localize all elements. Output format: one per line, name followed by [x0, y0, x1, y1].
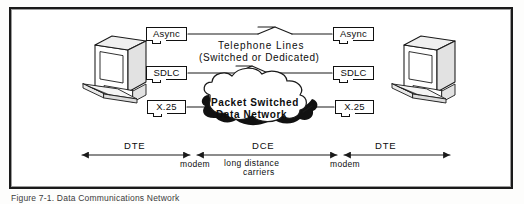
chip-tab	[339, 40, 348, 44]
protocol-chip-sdlc-left: SDLC	[146, 66, 187, 80]
chip-label: SDLC	[153, 68, 179, 78]
left-terminal-icon	[83, 36, 146, 103]
span-label-modem-right: modem	[330, 160, 360, 169]
chip-label: Async	[153, 29, 180, 39]
chip-tab	[152, 40, 161, 44]
protocol-chip-sdlc-right: SDLC	[333, 66, 374, 80]
chip-tab	[339, 79, 348, 83]
chip-tab	[341, 113, 350, 117]
telephone-lines-label-line1: Telephone Lines	[218, 41, 304, 52]
cloud-label-line2: Data Network	[216, 110, 287, 121]
right-terminal-icon	[392, 36, 455, 103]
span-label-modem-left: modem	[180, 160, 210, 169]
protocol-chip-x25-right: X.25	[335, 100, 374, 114]
span-label-dte-right: DTE	[375, 141, 396, 151]
figure-page: Async SDLC X.25 Async SDLC X.25 Telephon…	[0, 0, 524, 204]
span-label-dce: DCE	[252, 141, 274, 151]
chip-label: Async	[340, 29, 367, 39]
chip-label: X.25	[344, 102, 364, 112]
span-label-carriers-line2: carriers	[243, 168, 275, 177]
cloud-label-line1: Packet Switched	[211, 98, 299, 109]
async-link-line	[188, 27, 332, 34]
chip-tab	[152, 79, 161, 83]
chip-tab	[153, 113, 162, 117]
figure-caption: Figure 7-1. Data Communications Network	[11, 193, 341, 204]
protocol-chip-async-right: Async	[333, 27, 374, 41]
chip-label: X.25	[156, 102, 176, 112]
protocol-chip-x25-left: X.25	[147, 100, 186, 114]
protocol-chip-async-left: Async	[146, 27, 187, 41]
telephone-lines-label-line2: (Switched or Dedicated)	[199, 53, 320, 64]
span-label-dte-left: DTE	[124, 141, 145, 151]
chip-label: SDLC	[340, 68, 366, 78]
